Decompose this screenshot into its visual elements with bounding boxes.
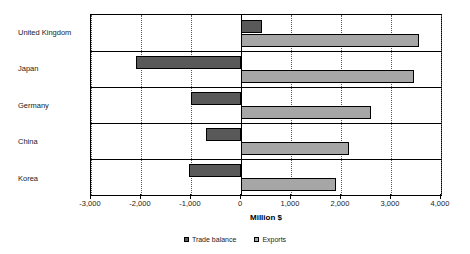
tick-label-0: 0 xyxy=(238,199,242,208)
gridline-category-3 xyxy=(91,123,441,124)
tick-label--1000: -1,000 xyxy=(179,199,200,208)
bar-united-kingdom-trade-balance xyxy=(241,20,262,33)
legend-label-exports: Exports xyxy=(262,236,286,243)
legend-swatch-exports xyxy=(254,237,259,242)
legend-label-trade-balance: Trade balance xyxy=(192,236,237,243)
category-axis-labels: United Kingdom Japan Germany China Korea xyxy=(0,14,88,196)
horizontal-bar-chart: United Kingdom Japan Germany China Korea… xyxy=(0,0,470,254)
category-label-4: Korea xyxy=(18,174,38,183)
bar-japan-trade-balance xyxy=(136,56,241,69)
bar-korea-exports xyxy=(241,178,336,191)
bar-korea-trade-balance xyxy=(189,164,242,177)
x-axis-title: Million $ xyxy=(90,213,442,222)
gridline-category-2 xyxy=(91,87,441,88)
x-axis-ticks: -3,000-2,000-1,00001,0002,0003,0004,000 xyxy=(90,199,442,213)
bar-china-trade-balance xyxy=(206,128,241,141)
gridline-x-4000 xyxy=(441,15,442,195)
bar-germany-trade-balance xyxy=(191,92,241,105)
gridline-x--2000 xyxy=(141,15,142,195)
legend-entry-exports: Exports xyxy=(254,236,286,243)
tick-label-3000: 3,000 xyxy=(381,199,400,208)
plot-area xyxy=(90,14,442,196)
legend-entry-trade-balance: Trade balance xyxy=(184,236,237,243)
gridline-category-4 xyxy=(91,159,441,160)
category-label-3: China xyxy=(18,137,38,146)
category-label-2: Germany xyxy=(18,101,49,110)
bar-japan-exports xyxy=(241,70,414,83)
bar-germany-exports xyxy=(241,106,371,119)
category-label-0: United Kingdom xyxy=(18,28,71,37)
tick-label-1000: 1,000 xyxy=(281,199,300,208)
bar-china-exports xyxy=(241,142,349,155)
chart-legend: Trade balance Exports xyxy=(0,236,470,243)
gridline-category-1 xyxy=(91,51,441,52)
category-label-1: Japan xyxy=(18,64,38,73)
tick-label--3000: -3,000 xyxy=(79,199,100,208)
gridline-x--3000 xyxy=(91,15,92,195)
tick-label-4000: 4,000 xyxy=(431,199,450,208)
tick-label--2000: -2,000 xyxy=(129,199,150,208)
bar-united-kingdom-exports xyxy=(241,34,419,47)
legend-swatch-trade-balance xyxy=(184,237,189,242)
tick-label-2000: 2,000 xyxy=(331,199,350,208)
